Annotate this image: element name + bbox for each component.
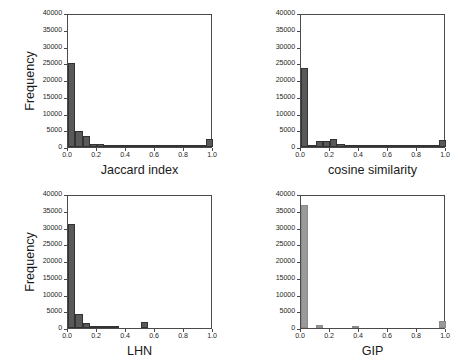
x-tick-mark	[300, 148, 301, 151]
histogram-bar	[97, 326, 104, 328]
x-axis-label-cosine: cosine similarity	[300, 163, 445, 177]
x-tick-label: 0.4	[120, 152, 130, 159]
histogram-bar	[119, 145, 126, 147]
x-tick-label: 0.6	[149, 152, 159, 159]
plot-area-cosine	[300, 14, 445, 148]
histogram-bar	[352, 326, 359, 328]
histogram-bar	[395, 145, 402, 147]
y-tick-label: 5000	[47, 309, 62, 316]
histogram-bar	[410, 145, 417, 147]
histogram-bar	[417, 145, 424, 147]
y-tick-label: 10000	[276, 111, 295, 118]
histogram-bar	[97, 144, 104, 147]
x-tick-mark	[445, 329, 446, 332]
y-tick-label: 20000	[43, 77, 62, 84]
histogram-bar	[104, 145, 111, 147]
y-tick-label: 30000	[276, 225, 295, 232]
y-tick-mark	[64, 279, 67, 280]
histogram-bar	[75, 131, 82, 147]
x-tick-label: 0.2	[91, 333, 101, 340]
histogram-bar	[141, 145, 148, 147]
histogram-bar	[104, 326, 111, 328]
x-tick-mark	[416, 329, 417, 332]
histogram-bar	[112, 326, 119, 328]
y-axis-label-lhn: Frequency	[23, 195, 37, 329]
y-tick-mark	[64, 195, 67, 196]
y-tick-label: 25000	[276, 61, 295, 68]
x-tick-label: 0.4	[353, 152, 363, 159]
y-tick-label: 5000	[280, 309, 295, 316]
histogram-bar	[133, 145, 140, 147]
y-tick-label: 10000	[276, 292, 295, 299]
y-tick-label: 35000	[43, 208, 62, 215]
x-tick-label: 0.8	[411, 152, 421, 159]
bar-series-cosine	[301, 15, 444, 147]
y-tick-label: 30000	[276, 44, 295, 51]
x-axis-label-gip: GIP	[300, 344, 445, 358]
x-tick-label: 0.0	[295, 333, 305, 340]
y-tick-mark	[297, 31, 300, 32]
histogram-bar	[432, 145, 439, 147]
y-tick-label: 30000	[43, 225, 62, 232]
bar-series-jaccard	[68, 15, 211, 147]
histogram-bar	[126, 145, 133, 147]
histogram-bar	[316, 141, 323, 147]
y-tick-mark	[297, 98, 300, 99]
y-tick-label: 15000	[276, 94, 295, 101]
y-tick-mark	[297, 296, 300, 297]
y-tick-mark	[64, 312, 67, 313]
y-tick-mark	[297, 131, 300, 132]
x-tick-mark	[125, 148, 126, 151]
y-tick-label: 40000	[43, 191, 62, 198]
histogram-bar	[424, 145, 431, 147]
x-tick-label: 0.2	[324, 152, 334, 159]
x-tick-mark	[387, 329, 388, 332]
x-tick-mark	[154, 329, 155, 332]
histogram-bar	[381, 145, 388, 147]
y-tick-mark	[64, 31, 67, 32]
x-tick-label: 0.0	[295, 152, 305, 159]
histogram-bar	[68, 63, 75, 147]
x-tick-mark	[212, 329, 213, 332]
histogram-bar	[184, 145, 191, 147]
y-tick-mark	[64, 14, 67, 15]
y-tick-mark	[297, 14, 300, 15]
x-tick-label: 0.4	[120, 333, 130, 340]
y-tick-label: 15000	[276, 275, 295, 282]
y-tick-mark	[64, 296, 67, 297]
histogram-bar	[83, 323, 90, 328]
histogram-bar	[439, 140, 446, 147]
y-tick-label: 25000	[43, 242, 62, 249]
x-tick-label: 0.8	[411, 333, 421, 340]
y-tick-label: 35000	[276, 208, 295, 215]
y-tick-mark	[64, 245, 67, 246]
y-tick-mark	[64, 98, 67, 99]
x-tick-label: 0.2	[324, 333, 334, 340]
x-tick-label: 0.4	[353, 333, 363, 340]
x-tick-mark	[125, 329, 126, 332]
x-tick-label: 0.0	[62, 152, 72, 159]
x-tick-label: 1.0	[207, 333, 217, 340]
y-tick-mark	[297, 212, 300, 213]
histogram-bar	[90, 326, 97, 328]
y-tick-mark	[64, 212, 67, 213]
y-tick-mark	[297, 115, 300, 116]
y-tick-mark	[297, 245, 300, 246]
y-tick-label: 20000	[276, 77, 295, 84]
y-tick-label: 35000	[43, 27, 62, 34]
x-tick-mark	[96, 329, 97, 332]
y-tick-mark	[297, 312, 300, 313]
y-axis-label-jaccard: Frequency	[23, 14, 37, 148]
histogram-bar	[366, 145, 373, 147]
y-tick-mark	[64, 115, 67, 116]
histogram-bar	[316, 325, 323, 328]
y-tick-label: 10000	[43, 292, 62, 299]
x-tick-mark	[96, 148, 97, 151]
x-tick-label: 0.0	[62, 333, 72, 340]
histogram-bar	[141, 322, 148, 328]
histogram-bar	[352, 145, 359, 147]
plot-area-lhn	[67, 195, 212, 329]
histogram-bar	[301, 68, 308, 147]
y-tick-label: 40000	[43, 10, 62, 17]
y-tick-mark	[64, 262, 67, 263]
